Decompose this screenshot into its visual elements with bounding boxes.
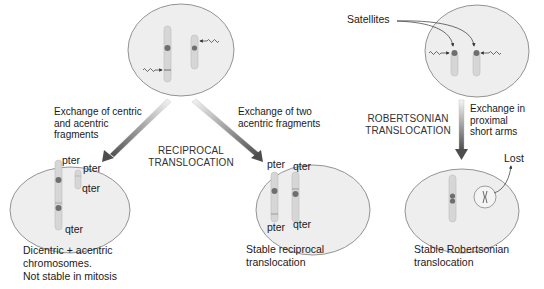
centromere-icon xyxy=(165,45,171,51)
label-line: short arms xyxy=(470,126,525,138)
heading-line: TRANSLOCATION xyxy=(362,125,454,137)
label-lost: Lost xyxy=(504,153,524,165)
satellite-icon xyxy=(474,50,480,56)
term-qter: qter xyxy=(293,218,311,230)
term-qter: qter xyxy=(82,182,100,194)
cell-top-reciprocal xyxy=(128,4,234,96)
caption-line: chromosomes. xyxy=(23,257,117,270)
caption-line: translocation xyxy=(414,256,509,269)
label-line: Exchange in xyxy=(470,103,525,115)
cell-dicentric-result xyxy=(10,160,130,253)
cell-stable-reciprocal-result xyxy=(256,165,370,255)
caption-stable-reciprocal: Stable reciprocal translocation xyxy=(246,243,324,269)
caption-line: Stable Robertsonian xyxy=(414,243,509,256)
label-satellites: Satellites xyxy=(347,14,390,26)
arrow-robertsonian-exchange xyxy=(455,100,468,160)
lost-fragment-circle xyxy=(474,186,496,208)
term-pter: pter xyxy=(267,158,285,170)
satellite-icon xyxy=(452,50,458,56)
chromosome-long xyxy=(164,26,171,82)
caption-stable-robertsonian: Stable Robertsonian translocation xyxy=(414,243,509,269)
cell-robertsonian-result xyxy=(405,166,519,253)
heading-reciprocal-translocation: RECIPROCAL TRANSLOCATION xyxy=(146,145,236,169)
label-line: fragments xyxy=(54,129,142,141)
cell-top-robertsonian xyxy=(425,5,529,97)
label-two-acentric-exchange: Exchange of two acentric fragments xyxy=(238,106,320,129)
centromere-icon xyxy=(192,45,197,50)
caption-line: Stable reciprocal xyxy=(246,243,324,256)
term-qter: qter xyxy=(65,223,83,235)
caption-line: Not stable in mitosis xyxy=(23,270,117,283)
heading-line: ROBERTSONIAN xyxy=(362,113,454,125)
label-line: proximal xyxy=(470,115,525,127)
label-line: acentric fragments xyxy=(238,118,320,130)
centromere-icon xyxy=(56,177,62,183)
label-line: Exchange of two xyxy=(238,106,320,118)
caption-line: translocation xyxy=(246,256,324,269)
term-pter: pter xyxy=(83,162,101,174)
term-pter: pter xyxy=(62,154,80,166)
centromere-icon xyxy=(293,191,299,197)
heading-line: RECIPROCAL xyxy=(146,145,236,157)
label-line: Exchange of centric xyxy=(54,106,142,118)
label-line: and acentric xyxy=(54,118,142,130)
chromosome-dicentric xyxy=(55,160,62,230)
caption-dicentric: Dicentric + acentric chromosomes. Not st… xyxy=(23,244,117,283)
centromere-icon xyxy=(56,205,62,211)
term-qter: qter xyxy=(293,160,311,172)
centromere-icon xyxy=(450,198,455,203)
chromosome-short xyxy=(191,35,198,69)
caption-line: Dicentric + acentric xyxy=(23,244,117,257)
centromere-icon xyxy=(450,193,455,198)
heading-line: TRANSLOCATION xyxy=(146,157,236,169)
centromere-icon xyxy=(272,188,278,194)
label-centric-acentric-exchange: Exchange of centric and acentric fragmen… xyxy=(54,106,142,141)
heading-robertsonian-translocation: ROBERTSONIAN TRANSLOCATION xyxy=(362,113,454,137)
term-pter: pter xyxy=(267,221,285,233)
chromosome-acentric xyxy=(75,170,81,189)
label-proximal-exchange: Exchange in proximal short arms xyxy=(470,103,525,138)
chromosome-derivative-1 xyxy=(271,172,278,222)
